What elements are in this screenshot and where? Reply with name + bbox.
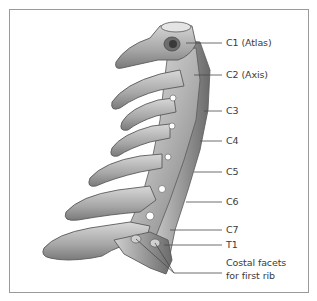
label-c5: C5 (226, 166, 238, 177)
label-c7: C7 (226, 224, 238, 235)
label-c2-axis: C2 (Axis) (226, 69, 268, 80)
label-costal-facets-line1: Costal facets (226, 257, 286, 268)
label-c4: C4 (226, 135, 238, 146)
label-costal-facets-line2: for first rib (226, 270, 275, 281)
label-c6: C6 (226, 196, 238, 207)
t1-vertebra (114, 232, 172, 274)
label-c3: C3 (226, 105, 238, 116)
label-t1: T1 (226, 239, 238, 250)
label-c1-atlas: C1 (Atlas) (226, 37, 272, 48)
